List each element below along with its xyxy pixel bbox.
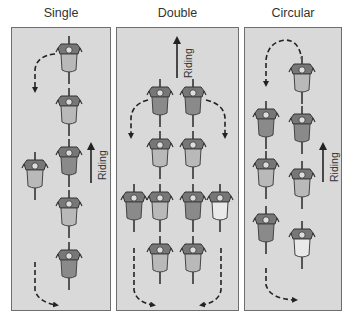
cyclist-icon — [56, 88, 82, 136]
cyclist-icon — [180, 236, 206, 284]
cyclist-icon — [147, 184, 173, 232]
path-single-top — [35, 54, 55, 90]
cyclist-icon — [289, 221, 315, 269]
cyclist-icon — [121, 184, 147, 232]
riding-arrow-single: Riding — [91, 146, 108, 183]
cyclist-icon — [56, 139, 82, 187]
cyclist-icon — [253, 101, 279, 149]
cyclist-icon — [147, 131, 173, 179]
riding-arrow-circular: Riding — [323, 146, 340, 182]
cyclist-icon — [207, 184, 233, 232]
cyclist-icon — [180, 184, 206, 232]
path-double-left — [131, 100, 148, 136]
cyclist-icon — [147, 79, 173, 127]
cyclist-icon — [289, 161, 315, 209]
riders — [22, 36, 315, 290]
cyclist-icon — [56, 36, 82, 84]
cyclist-icon — [180, 79, 206, 127]
riding-label-circular: Riding — [328, 152, 340, 182]
riding-label-double: Riding — [182, 48, 194, 78]
path-single-bottom — [35, 262, 56, 305]
cyclist-icon — [56, 242, 82, 290]
cyclist-icon — [180, 131, 206, 179]
cyclist-icon — [253, 206, 279, 254]
path-double-bottom-right — [202, 248, 221, 305]
riding-label-single: Riding — [96, 150, 108, 180]
path-double-bottom-left — [134, 248, 153, 305]
cyclist-icon — [289, 106, 315, 154]
path-double-right — [206, 100, 225, 136]
path-circular-bottom — [266, 268, 295, 300]
cyclist-icon — [147, 236, 173, 284]
riding-arrow-double: Riding — [177, 40, 194, 78]
cyclist-icon — [56, 190, 82, 238]
cyclist-icon — [253, 151, 279, 199]
diagram-overlay: Riding Riding Riding — [0, 0, 354, 326]
cyclist-icon — [22, 152, 48, 200]
cyclist-icon — [289, 56, 315, 104]
